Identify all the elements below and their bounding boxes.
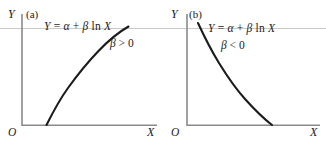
equation-lhs: Y (44, 20, 51, 32)
condition-label: β < 0 (221, 40, 245, 52)
condition-beta: β (221, 39, 227, 51)
equation-x: X (268, 22, 275, 34)
x-axis-label: X (310, 126, 317, 138)
origin-label: O (8, 127, 16, 139)
equation-beta: β (83, 20, 89, 32)
equation-alpha: α (227, 22, 233, 34)
panel-a: Y (a) Y = α + β ln X β > 0 X O (0, 0, 163, 148)
equation-label: Y = α + β ln X (208, 23, 275, 35)
condition-beta: β (110, 37, 116, 49)
equation-plus: + (237, 22, 244, 34)
y-axis-label: Y (8, 8, 15, 20)
equation-alpha: α (63, 20, 69, 32)
equation-equals: = (54, 20, 61, 32)
condition-operator: < (230, 39, 237, 51)
equation-label: Y = α + β ln X (44, 21, 111, 33)
equation-plus: + (73, 20, 80, 32)
panel-tag: (b) (189, 9, 202, 20)
condition-value: 0 (239, 39, 245, 51)
y-axis-label: Y (171, 8, 178, 20)
equation-lhs: Y (208, 22, 215, 34)
x-axis-label: X (147, 126, 154, 138)
condition-operator: > (119, 37, 126, 49)
condition-label: β > 0 (110, 38, 134, 50)
condition-value: 0 (128, 37, 134, 49)
figure-root: Y (a) Y = α + β ln X β > 0 X O Y (b) Y =… (0, 0, 326, 148)
equation-equals: = (218, 22, 225, 34)
equation-ln: ln (92, 20, 101, 32)
equation-ln: ln (256, 22, 265, 34)
panel-tag: (a) (26, 9, 38, 20)
panel-b: Y (b) Y = α + β ln X β < 0 X O (163, 0, 326, 148)
origin-label: O (171, 127, 179, 139)
equation-beta: β (247, 22, 253, 34)
equation-x: X (104, 20, 111, 32)
